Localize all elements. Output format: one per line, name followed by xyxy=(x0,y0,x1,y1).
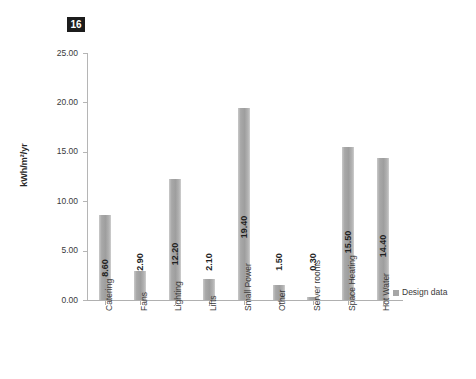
y-axis-title: kWh/m²/yr xyxy=(19,110,29,220)
bar-value-label: 1.50 xyxy=(273,242,285,282)
x-category-label: Lighting xyxy=(173,281,183,311)
bar-value-label: 2.90 xyxy=(134,242,146,282)
y-axis-line xyxy=(87,53,88,301)
y-tick-label: 25.00 xyxy=(32,49,78,58)
chart-legend: Design data xyxy=(393,288,447,297)
bar-value-label: 14.40 xyxy=(377,226,389,266)
x-category-label: Catering xyxy=(104,279,114,311)
y-tick-label: 10.00 xyxy=(32,197,78,206)
x-category-label: Other xyxy=(277,290,287,311)
y-tick-mark xyxy=(83,53,87,54)
x-category-label: Hot Water xyxy=(381,273,391,311)
x-category-label: Small Power xyxy=(243,263,253,311)
x-category-label: Server rooms xyxy=(312,260,322,311)
y-tick-mark xyxy=(83,201,87,202)
figure-container: 16 kWh/m²/yr 0.005.0010.0015.0020.0025.0… xyxy=(0,0,476,379)
x-category-label: Fans xyxy=(139,292,149,311)
x-category-label: Space Heating xyxy=(347,255,357,311)
bar-value-label: 12.20 xyxy=(169,234,181,274)
bar-value-label: 2.10 xyxy=(203,242,215,282)
y-tick-label: 15.00 xyxy=(32,147,78,156)
y-tick-mark xyxy=(83,102,87,103)
y-tick-label: 5.00 xyxy=(32,246,78,255)
y-tick-mark xyxy=(83,152,87,153)
bar-value-label: 19.40 xyxy=(238,207,250,247)
y-tick-label: 20.00 xyxy=(32,98,78,107)
legend-label-design-data: Design data xyxy=(402,288,447,297)
legend-swatch-design-data xyxy=(393,290,399,296)
x-category-label: Lifts xyxy=(208,295,218,311)
y-tick-label: 0.00 xyxy=(32,296,78,305)
figure-number-badge: 16 xyxy=(67,17,85,32)
y-tick-mark xyxy=(83,251,87,252)
y-tick-mark xyxy=(83,300,87,301)
